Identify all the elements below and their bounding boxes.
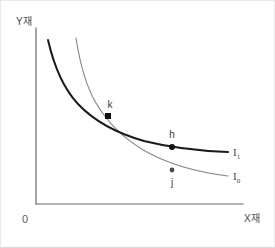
- indifference-curve-i1: [48, 40, 228, 152]
- origin-label: 0: [22, 213, 28, 225]
- plot-area: k h j I1 I0 Y재 X재 0: [0, 0, 275, 248]
- data-point-j-label: j: [170, 177, 173, 188]
- indifference-curve-i0: [76, 38, 228, 176]
- y-axis-label: Y재: [16, 16, 32, 27]
- curve-label-i1: I1: [233, 146, 241, 161]
- curve-labels-group: I1 I0: [233, 146, 241, 185]
- data-point-h: [169, 144, 175, 150]
- axes-group: [36, 28, 243, 204]
- data-points-group: k h j: [105, 99, 175, 188]
- curves-group: [48, 38, 228, 176]
- curve-label-i0-subscript: 0: [237, 177, 241, 185]
- indifference-curve-figure: k h j I1 I0 Y재 X재 0: [0, 0, 275, 248]
- curve-label-i0: I0: [233, 170, 241, 185]
- data-point-k-label: k: [108, 99, 114, 110]
- data-point-k: [105, 113, 111, 119]
- curve-label-i1-subscript: 1: [237, 153, 241, 161]
- x-axis-label: X재: [244, 213, 260, 224]
- data-point-j: [170, 168, 175, 173]
- data-point-h-label: h: [169, 129, 175, 140]
- axis-labels-group: Y재 X재 0: [16, 16, 260, 225]
